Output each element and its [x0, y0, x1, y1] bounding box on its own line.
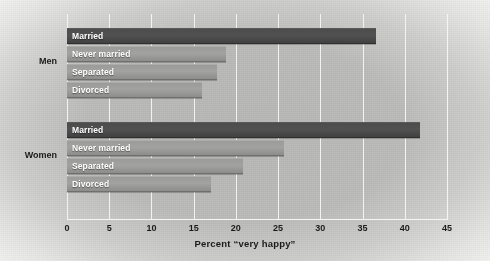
group-label-women: Women: [0, 150, 57, 160]
x-tick-label: 15: [189, 223, 199, 233]
bar-row: Married: [67, 122, 447, 136]
bar-label: Separated: [72, 161, 114, 171]
bar-label: Divorced: [72, 85, 109, 95]
bar: Separated: [67, 64, 217, 80]
x-tick-label: 40: [400, 223, 410, 233]
chart-figure: MarriedNever marriedSeparatedDivorcedMar…: [0, 0, 490, 261]
bar-label: Never married: [72, 143, 130, 153]
group-label-men: Men: [0, 56, 57, 66]
bar-label: Never married: [72, 49, 130, 59]
x-tick-label: 10: [146, 223, 156, 233]
bar-row: Separated: [67, 64, 447, 78]
bar-row: Separated: [67, 158, 447, 172]
bar: Married: [67, 28, 376, 44]
x-tick-label: 35: [358, 223, 368, 233]
x-axis-baseline: [67, 219, 447, 220]
x-axis-tick-labels: 051015202530354045: [0, 223, 490, 235]
bar: Divorced: [67, 176, 211, 192]
bar-label: Married: [72, 125, 103, 135]
bar-row: Never married: [67, 140, 447, 154]
bar-row: Married: [67, 28, 447, 42]
gridline: [447, 14, 448, 220]
bar: Married: [67, 122, 420, 138]
bar: Separated: [67, 158, 243, 174]
bar: Never married: [67, 140, 284, 156]
bar-label: Married: [72, 31, 103, 41]
bar-label: Separated: [72, 67, 114, 77]
bar: Never married: [67, 46, 226, 62]
x-axis-title: Percent “very happy”: [0, 238, 490, 249]
x-tick-label: 45: [442, 223, 452, 233]
x-tick-label: 30: [315, 223, 325, 233]
bar: Divorced: [67, 82, 202, 98]
x-tick-label: 5: [107, 223, 112, 233]
bar-label: Divorced: [72, 179, 109, 189]
bar-row: Never married: [67, 46, 447, 60]
bar-row: Divorced: [67, 82, 447, 96]
x-tick-label: 20: [231, 223, 241, 233]
x-tick-label: 25: [273, 223, 283, 233]
x-tick-label: 0: [64, 223, 69, 233]
bar-row: Divorced: [67, 176, 447, 190]
plot-area: MarriedNever marriedSeparatedDivorcedMar…: [67, 14, 447, 220]
